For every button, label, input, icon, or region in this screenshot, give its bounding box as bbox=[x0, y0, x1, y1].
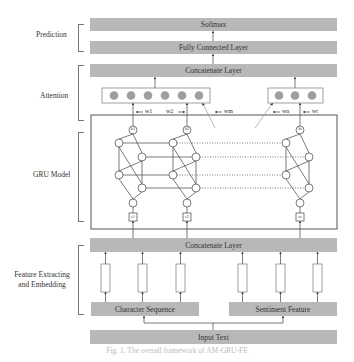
input-label-et: et bbox=[296, 214, 304, 220]
hidden-label-h2: h2 bbox=[183, 126, 191, 132]
input-label-e1: e1 bbox=[129, 214, 137, 220]
figure-caption: Fig. 1. The overall framework of AM-GRU-… bbox=[0, 346, 354, 355]
diagram-graphics bbox=[0, 0, 354, 362]
weight-label-wt: wt bbox=[312, 108, 318, 116]
gru-column-2 bbox=[169, 126, 200, 221]
hidden-label-ht: ht bbox=[296, 126, 304, 132]
weight-label-w2: w2 bbox=[166, 108, 173, 116]
weight-label-wn: wn bbox=[282, 108, 289, 116]
gru-column-t bbox=[282, 126, 313, 221]
input-label-e2: e2 bbox=[183, 214, 191, 220]
weight-label-w1: w1 bbox=[145, 108, 152, 116]
hidden-label-h1: h1 bbox=[129, 126, 137, 132]
gru-column-1 bbox=[115, 126, 146, 221]
weight-label-wm: wm bbox=[224, 108, 233, 116]
